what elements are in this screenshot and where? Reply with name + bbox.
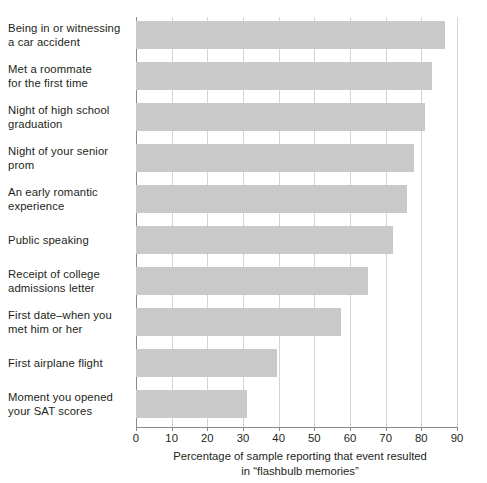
x-tick-label: 30	[237, 431, 250, 445]
category-label: Receipt of collegeadmissions letter	[8, 267, 132, 295]
bar	[136, 226, 393, 254]
x-axis-title-line: Percentage of sample reporting that even…	[120, 449, 480, 464]
category-label-line: Night of high school	[8, 103, 132, 117]
category-label-line: Met a roommate	[8, 62, 132, 76]
category-label: Public speaking	[8, 233, 132, 247]
bar	[136, 144, 414, 172]
category-axis-labels: Being in or witnessinga car accidentMet …	[0, 17, 130, 427]
x-tick-label: 0	[133, 431, 139, 445]
x-tick-label: 40	[272, 431, 285, 445]
category-label: First date–when youmet him or her	[8, 308, 132, 336]
x-tick-label: 60	[344, 431, 357, 445]
category-label: An early romanticexperience	[8, 185, 132, 213]
x-tick-label: 20	[201, 431, 214, 445]
category-label-line: your SAT scores	[8, 404, 132, 418]
bars-layer	[136, 17, 457, 427]
category-label-line: Night of your senior	[8, 144, 132, 158]
bar	[136, 267, 368, 295]
flashbulb-memories-bar-chart: Being in or witnessinga car accidentMet …	[0, 0, 487, 483]
category-label-line: Receipt of college	[8, 267, 132, 281]
category-label-line: Being in or witnessing	[8, 21, 132, 35]
x-axis-title-line: in “flashbulb memories”	[120, 464, 480, 479]
bar	[136, 390, 247, 418]
category-label-line: Moment you opened	[8, 390, 132, 404]
bar	[136, 185, 407, 213]
category-label-line: prom	[8, 158, 132, 172]
bar	[136, 349, 277, 377]
category-label: Night of high schoolgraduation	[8, 103, 132, 131]
plot-area	[136, 17, 457, 427]
bar	[136, 62, 432, 90]
category-label-line: An early romantic	[8, 185, 132, 199]
bar	[136, 103, 425, 131]
category-label: Being in or witnessinga car accident	[8, 21, 132, 49]
category-label: First airplane flight	[8, 356, 132, 370]
x-tick-label: 50	[308, 431, 321, 445]
category-label-line: for the first time	[8, 76, 132, 90]
x-tick-label: 70	[379, 431, 392, 445]
x-tick-label: 90	[451, 431, 464, 445]
x-axis-tick-labels: 0102030405060708090	[136, 431, 457, 447]
category-label-line: met him or her	[8, 322, 132, 336]
category-label-line: graduation	[8, 117, 132, 131]
x-tick-label: 10	[165, 431, 178, 445]
category-label-line: First airplane flight	[8, 356, 132, 370]
category-label-line: Public speaking	[8, 233, 132, 247]
category-label-line: admissions letter	[8, 281, 132, 295]
category-label-line: First date–when you	[8, 308, 132, 322]
category-label: Moment you openedyour SAT scores	[8, 390, 132, 418]
category-label: Met a roommatefor the first time	[8, 62, 132, 90]
bar	[136, 308, 341, 336]
category-label-line: experience	[8, 199, 132, 213]
category-label-line: a car accident	[8, 35, 132, 49]
category-label: Night of your seniorprom	[8, 144, 132, 172]
bar	[136, 21, 445, 49]
x-tick-label: 80	[415, 431, 428, 445]
gridline-90	[457, 17, 458, 427]
x-axis-title: Percentage of sample reporting that even…	[120, 449, 480, 479]
